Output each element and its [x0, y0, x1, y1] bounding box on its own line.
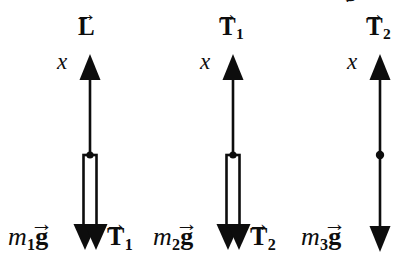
free-body-diagram-3: →T2 x m3→g: [288, 0, 419, 271]
point-mass-node-3: [376, 151, 384, 159]
force-arrow-up-T1: [223, 54, 244, 156]
rod-top-node-2: [229, 151, 236, 158]
axis-label-x-2: x: [200, 50, 210, 73]
force-label-m1g: m1→g: [8, 224, 48, 253]
force-arrow-up-T2: [370, 54, 391, 232]
free-body-diagram-figure: g →L x m1→g: [0, 0, 419, 271]
rod-top-node-1: [86, 151, 93, 158]
force-label-m2g: m2→g: [153, 224, 193, 253]
force-label-m3g: m3→g: [301, 224, 341, 253]
axis-label-x-3: x: [347, 50, 357, 73]
force-arrow-up-L: [80, 54, 101, 156]
force-label-T1-top: →T1: [219, 14, 244, 42]
force-label-T2-bottom: →T2: [250, 224, 276, 253]
free-body-diagram-1: →L x m1→g →T1: [0, 0, 143, 271]
rod-body-1: [84, 155, 97, 233]
axis-label-x-1: x: [57, 50, 67, 73]
free-body-diagram-2: →T1 x m2→g →T2: [143, 0, 288, 271]
force-label-L: →L: [78, 14, 95, 39]
force-arrow-down-m3g: [370, 226, 391, 252]
force-label-T1-bottom: →T1: [107, 224, 133, 253]
force-label-T2-top: →T2: [366, 14, 391, 42]
rod-body-2: [227, 155, 240, 233]
